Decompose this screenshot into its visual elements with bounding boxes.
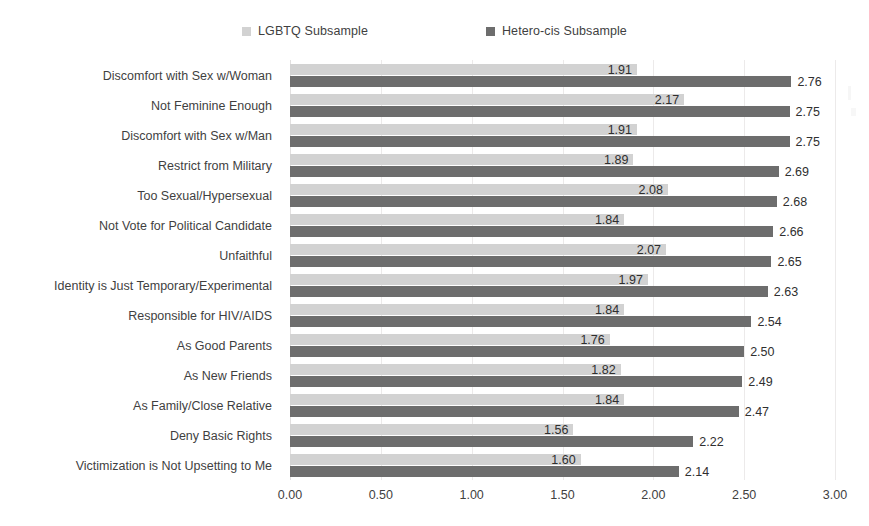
bar-hetero-cis — [290, 346, 744, 357]
bar-value-label: 1.84 — [595, 305, 624, 316]
bar-lgbtq — [290, 364, 621, 375]
bar-value-label: 1.91 — [608, 65, 637, 76]
gridline — [835, 60, 836, 480]
bar-value-label: 1.84 — [595, 215, 624, 226]
bar-value-label: 2.07 — [637, 245, 666, 256]
bar-value-label: 2.08 — [639, 185, 668, 196]
bar-lgbtq — [290, 124, 637, 135]
bar-hetero-cis — [290, 166, 779, 177]
gridline — [381, 60, 382, 480]
x-tick-label: 0.00 — [278, 488, 302, 502]
bar-lgbtq — [290, 454, 581, 465]
bar-value-label: 1.89 — [604, 155, 633, 166]
x-tick-label: 0.50 — [369, 488, 393, 502]
legend-label: Hetero-cis Subsample — [502, 24, 627, 38]
category-axis-labels: Discomfort with Sex w/WomanNot Feminine … — [0, 60, 278, 480]
bar-value-label: 2.63 — [768, 287, 798, 298]
bar-lgbtq — [290, 214, 624, 225]
bar-hetero-cis — [290, 286, 768, 297]
bar-lgbtq — [290, 424, 573, 435]
value-axis-line — [290, 60, 291, 480]
bar-value-label: 2.66 — [773, 227, 803, 238]
category-label: Not Vote for Political Candidate — [0, 220, 272, 233]
bar-value-label: 1.82 — [591, 365, 620, 376]
legend-swatch-icon — [486, 27, 495, 36]
bar-value-label: 1.76 — [580, 335, 609, 346]
category-label: As Good Parents — [0, 340, 272, 353]
bar-lgbtq — [290, 64, 637, 75]
bar-chart: LGBTQ SubsampleHetero-cis Subsample Disc… — [0, 0, 869, 526]
bar-value-label: 1.60 — [551, 455, 580, 466]
plot-wrapper: Discomfort with Sex w/WomanNot Feminine … — [0, 60, 869, 485]
bar-value-label: 2.49 — [742, 377, 772, 388]
gridline — [563, 60, 564, 480]
bar-value-label: 2.76 — [791, 77, 821, 88]
bar-lgbtq — [290, 184, 668, 195]
bar-value-label: 2.69 — [779, 167, 809, 178]
bar-lgbtq — [290, 154, 633, 165]
category-label: Unfaithful — [0, 250, 272, 263]
bar-hetero-cis — [290, 106, 790, 117]
x-tick-label: 2.00 — [641, 488, 665, 502]
bar-value-label: 1.97 — [619, 275, 648, 286]
plot-area: 1.912.762.172.751.912.751.892.692.082.68… — [290, 60, 835, 480]
value-axis-ticks: 0.000.501.001.502.002.503.00 — [290, 488, 835, 508]
category-label: As New Friends — [0, 370, 272, 383]
legend-label: LGBTQ Subsample — [258, 24, 368, 38]
category-label: Victimization is Not Upsetting to Me — [0, 460, 272, 473]
bar-lgbtq — [290, 274, 648, 285]
bar-value-label: 2.65 — [771, 257, 801, 268]
x-tick-label: 2.50 — [732, 488, 756, 502]
category-label: Discomfort with Sex w/Man — [0, 130, 272, 143]
bar-value-label: 2.14 — [679, 467, 709, 478]
bar-lgbtq — [290, 244, 666, 255]
bar-value-label: 2.50 — [744, 347, 774, 358]
bar-value-label: 1.56 — [544, 425, 573, 436]
bar-lgbtq — [290, 304, 624, 315]
bar-hetero-cis — [290, 226, 773, 237]
x-tick-label: 1.00 — [459, 488, 483, 502]
bar-hetero-cis — [290, 256, 771, 267]
bar-hetero-cis — [290, 466, 679, 477]
gridline — [472, 60, 473, 480]
category-label: Deny Basic Rights — [0, 430, 272, 443]
bar-value-label: 2.75 — [790, 137, 820, 148]
category-label: Identity is Just Temporary/Experimental — [0, 280, 272, 293]
bar-hetero-cis — [290, 436, 693, 447]
bar-value-label: 2.22 — [693, 437, 723, 448]
bar-lgbtq — [290, 394, 624, 405]
bar-value-label: 1.91 — [608, 125, 637, 136]
bar-hetero-cis — [290, 376, 742, 387]
bar-hetero-cis — [290, 196, 777, 207]
category-label: Restrict from Military — [0, 160, 272, 173]
category-label: Too Sexual/Hypersexual — [0, 190, 272, 203]
bar-hetero-cis — [290, 76, 791, 87]
chart-legend: LGBTQ SubsampleHetero-cis Subsample — [0, 24, 869, 38]
bar-value-label: 2.47 — [739, 407, 769, 418]
bar-value-label: 2.68 — [777, 197, 807, 208]
category-label: Responsible for HIV/AIDS — [0, 310, 272, 323]
bar-hetero-cis — [290, 406, 739, 417]
x-tick-label: 3.00 — [823, 488, 847, 502]
category-label: As Family/Close Relative — [0, 400, 272, 413]
bar-value-label: 2.17 — [655, 95, 684, 106]
category-label: Discomfort with Sex w/Woman — [0, 70, 272, 83]
bar-hetero-cis — [290, 136, 790, 147]
bar-hetero-cis — [290, 316, 751, 327]
bar-value-label: 1.84 — [595, 395, 624, 406]
gridline — [653, 60, 654, 480]
bar-lgbtq — [290, 94, 684, 105]
bar-value-label: 2.54 — [751, 317, 781, 328]
legend-item-0[interactable]: LGBTQ Subsample — [242, 24, 368, 38]
category-label: Not Feminine Enough — [0, 100, 272, 113]
x-tick-label: 1.50 — [550, 488, 574, 502]
bar-value-label: 2.75 — [790, 107, 820, 118]
legend-swatch-icon — [242, 27, 251, 36]
legend-item-1[interactable]: Hetero-cis Subsample — [486, 24, 627, 38]
bar-lgbtq — [290, 334, 610, 345]
